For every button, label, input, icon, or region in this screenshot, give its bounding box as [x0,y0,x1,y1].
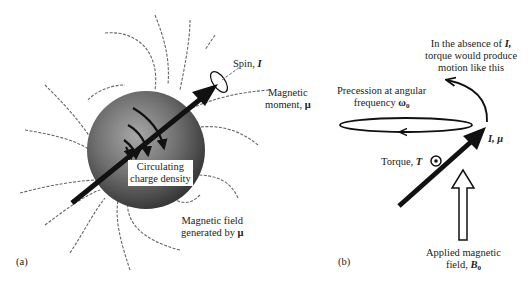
torque-label: Torque, T [381,156,422,168]
charge-density-line1: Circulating [130,161,191,173]
precession-ellipse [340,118,472,132]
precession-line2: frequency [354,97,399,108]
precession-label: Precession at angular frequency ω0 [337,85,426,112]
I-symbol: I, [505,38,512,49]
absence-line2: torque would produce [425,50,517,62]
absence-label: In the absence of I, torque would produc… [425,38,517,74]
precession-line1: Precession at angular [337,85,426,97]
spin-symbol: I [258,58,262,69]
charge-density-line2: charge density [130,173,191,185]
panel-b-label: (b) [338,256,350,268]
torque-symbol-icon [431,156,441,166]
absence-line1: In the absence of [431,38,505,49]
mu-symbol: μ [305,99,311,110]
absence-motion-arrow [447,80,487,122]
panel-a-label: (a) [16,256,28,268]
charge-density-label: Circulating charge density [128,160,193,186]
magnetic-moment-line1: Magnetic [265,87,311,99]
field-line1: Magnetic field [181,215,244,227]
mu-symbol: μ [238,227,244,238]
applied-field-arrow [452,170,474,240]
B-subscript: 0 [477,264,481,272]
applied-field-line1: Applied magnetic [426,247,501,259]
omega-subscript: 0 [406,102,410,110]
T-symbol: T [416,156,422,167]
spin-label: Spin, I [233,58,262,70]
magnetic-moment-line2: moment, [265,99,305,110]
absence-line3: motion like this [425,62,517,74]
field-label: Magnetic field generated by μ [181,215,244,239]
field-line2: generated by [181,227,238,238]
spin-label-text: Spin, [233,58,258,69]
applied-field-line2: field, [446,259,471,270]
magnetic-moment-label: Magnetic moment, μ [265,87,311,111]
omega-symbol: ω [398,97,406,108]
torque-text: Torque, [381,156,416,167]
vector-label: I, μ [488,133,503,145]
applied-field-label: Applied magnetic field, B0 [426,247,501,274]
